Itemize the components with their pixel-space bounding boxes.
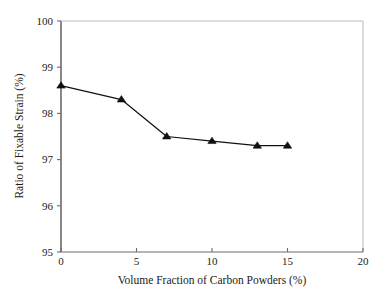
x-tick-label: 0: [58, 255, 64, 267]
x-axis-title: Volume Fraction of Carbon Powders (%): [118, 274, 307, 287]
x-tick-label: 10: [207, 255, 219, 267]
y-tick-label: 100: [37, 15, 54, 27]
y-axis-title: Ratio of Fixable Strain (%): [13, 73, 26, 198]
line-chart: 9596979899100 05101520 Volume Fraction o…: [0, 0, 383, 294]
y-tick-label: 97: [42, 153, 54, 165]
figure-background: [0, 0, 383, 294]
y-tick-label: 98: [42, 107, 54, 119]
y-tick-label: 96: [42, 200, 54, 212]
chart-figure: 9596979899100 05101520 Volume Fraction o…: [0, 0, 383, 294]
x-tick-label: 5: [134, 255, 140, 267]
x-tick-label: 20: [358, 255, 370, 267]
y-tick-label: 99: [42, 61, 54, 73]
x-tick-label: 15: [282, 255, 294, 267]
y-tick-label: 95: [42, 246, 54, 258]
